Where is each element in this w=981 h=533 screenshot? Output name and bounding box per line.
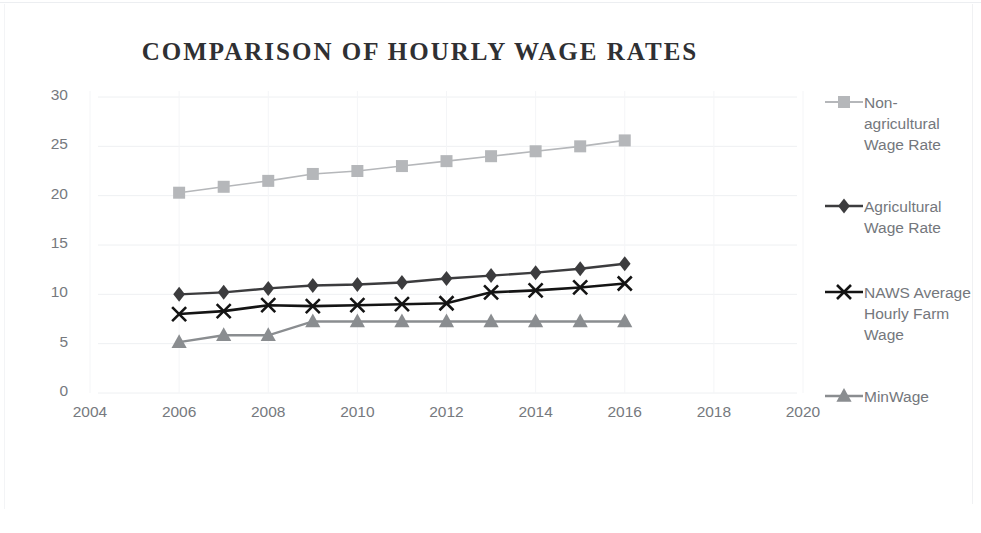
data-point-diamond: [838, 199, 850, 214]
x-axis-tick-label: 2016: [590, 403, 660, 421]
data-point-square: [218, 181, 230, 193]
chart-page: COMPARISON OF HOURLY WAGE RATES 30252015…: [0, 0, 981, 533]
legend-entry-0[interactable]: Non-agricultural Wage Rate: [824, 92, 972, 155]
y-axis-tick-label: 5: [28, 333, 68, 351]
data-point-square: [530, 145, 542, 157]
legend-label: NAWS Average Hourly Farm Wage: [864, 282, 972, 345]
data-point-square: [574, 140, 586, 152]
scan-border-right: [972, 4, 973, 504]
legend-label: MinWage: [864, 386, 972, 407]
data-point-square: [485, 150, 497, 162]
y-axis-tick-label: 10: [28, 283, 68, 301]
data-point-diamond: [352, 277, 364, 292]
legend-label: Agricultural Wage Rate: [864, 196, 972, 238]
data-point-diamond: [396, 275, 408, 290]
x-axis-tick-label: 2012: [412, 403, 482, 421]
x-axis-tick-label: 2008: [233, 403, 303, 421]
data-point-square: [307, 168, 319, 180]
legend-entry-3[interactable]: MinWage: [824, 386, 972, 407]
x-axis-tick-label: 2006: [144, 403, 214, 421]
data-point-diamond: [307, 278, 319, 293]
x-axis-tick-label: 2018: [679, 403, 749, 421]
data-point-diamond: [530, 265, 542, 280]
x-axis-tick-label: 2010: [322, 403, 392, 421]
data-point-diamond: [218, 285, 230, 300]
data-point-square: [351, 165, 363, 177]
series-1: [173, 256, 630, 302]
x-axis-tick-label: 2004: [55, 403, 125, 421]
legend-marker-triangle-icon: [824, 387, 864, 405]
legend-marker-square-icon: [824, 93, 864, 111]
plot-canvas: [0, 0, 840, 440]
data-point-square: [173, 187, 185, 199]
legend-entry-1[interactable]: Agricultural Wage Rate: [824, 196, 972, 238]
legend-label: Non-agricultural Wage Rate: [864, 92, 972, 155]
legend-marker-diamond-icon: [824, 197, 864, 215]
series-0: [173, 134, 631, 198]
data-point-square: [619, 134, 631, 146]
plot-area: 302520151050 200420062008201020122014201…: [0, 0, 840, 440]
data-point-diamond: [619, 256, 631, 271]
y-axis-tick-label: 30: [28, 86, 68, 104]
y-axis-tick-label: 20: [28, 185, 68, 203]
data-point-square: [396, 160, 408, 172]
y-axis-tick-label: 0: [28, 382, 68, 400]
legend-entry-2[interactable]: NAWS Average Hourly Farm Wage: [824, 282, 972, 345]
data-point-square: [838, 96, 850, 108]
data-point-square: [262, 175, 274, 187]
series-3: [172, 313, 633, 347]
data-point-diamond: [574, 261, 586, 276]
y-axis-tick-label: 25: [28, 135, 68, 153]
data-point-diamond: [485, 268, 497, 283]
data-point-square: [441, 155, 453, 167]
data-point-diamond: [441, 271, 453, 286]
data-point-diamond: [262, 281, 274, 296]
y-axis-tick-label: 15: [28, 234, 68, 252]
data-point-diamond: [173, 287, 185, 302]
x-axis-tick-label: 2014: [501, 403, 571, 421]
legend-marker-x-icon: [824, 283, 864, 301]
